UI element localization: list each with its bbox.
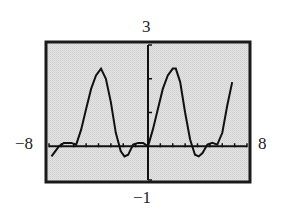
graph-screen bbox=[0, 0, 281, 218]
